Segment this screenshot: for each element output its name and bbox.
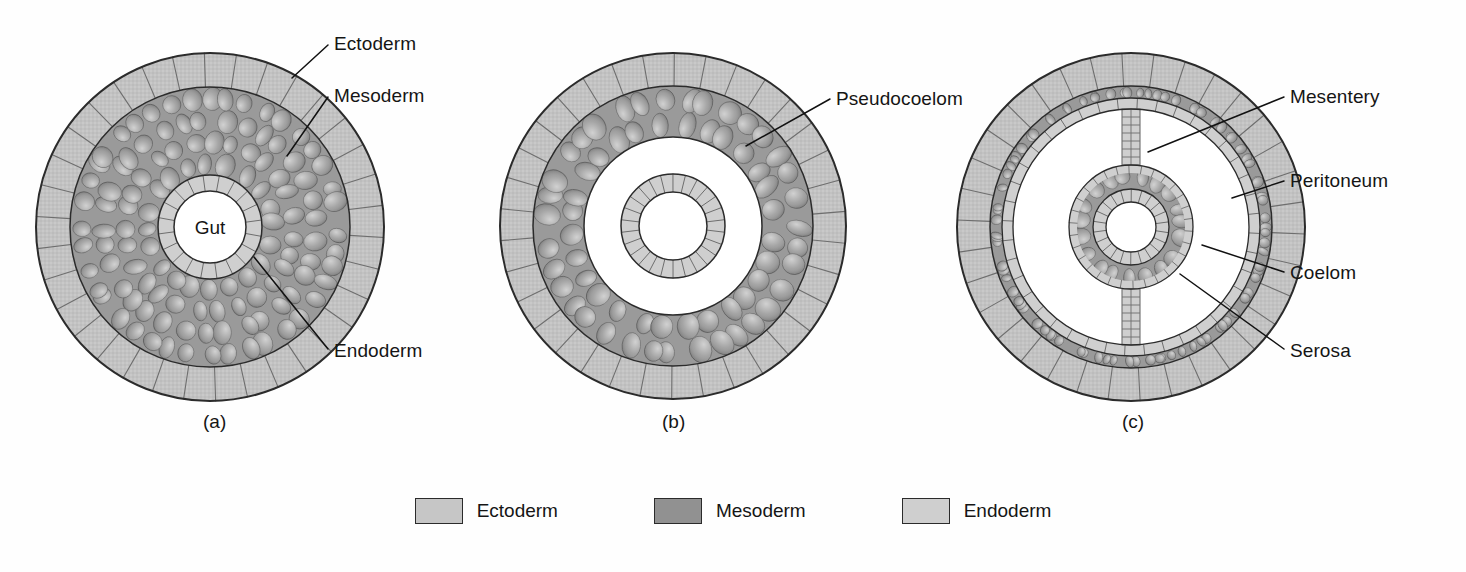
cell-divider [1137, 98, 1138, 109]
cell-divider [1185, 231, 1193, 232]
label-pseudocoelom-b: Pseudocoelom [836, 88, 963, 110]
legend-swatch-mesoderm [654, 498, 702, 524]
gut-cavity-label-a: Gut [195, 217, 226, 238]
panel-c [957, 53, 1305, 401]
anatomy-diagram-svg: Gut [0, 0, 1466, 572]
cell-divider [1002, 221, 1013, 222]
label-ectoderm-a: Ectoderm [334, 33, 416, 55]
leader-line-ectoderm-a [292, 45, 328, 78]
label-endoderm-a: Endoderm [334, 340, 422, 362]
legend-swatch-endoderm [902, 498, 950, 524]
legend-item-mesoderm: Mesoderm [654, 498, 806, 524]
mesoderm-cell-shading [116, 220, 135, 238]
legend-swatch-ectoderm [415, 498, 463, 524]
legend-item-endoderm: Endoderm [902, 498, 1052, 524]
label-mesoderm-a: Mesoderm [334, 85, 425, 107]
panel-a: Gut [36, 45, 384, 401]
legend-item-ectoderm: Ectoderm [415, 498, 558, 524]
caption-panel-c: (c) [1122, 411, 1144, 433]
mesoderm-cell-shading [213, 321, 231, 345]
panel-b [500, 53, 846, 399]
caption-panel-a: (a) [203, 411, 226, 433]
label-peritoneum-c: Peritoneum [1290, 170, 1388, 192]
legend: Ectoderm Mesoderm Endoderm [0, 498, 1466, 524]
figure-canvas: Gut Ectoderm Mesoderm Endoderm (a) Pseud… [0, 0, 1466, 572]
label-mesentery-c: Mesentery [1290, 86, 1380, 108]
legend-label-mesoderm: Mesoderm [716, 500, 806, 522]
cell-divider [1125, 345, 1126, 356]
label-coelom-c: Coelom [1290, 262, 1356, 284]
legend-label-endoderm: Endoderm [964, 500, 1052, 522]
cell-divider [1249, 233, 1260, 234]
legend-label-ectoderm: Ectoderm [477, 500, 558, 522]
caption-panel-b: (b) [662, 411, 685, 433]
cell-divider [1069, 223, 1077, 224]
label-serosa-c: Serosa [1290, 340, 1351, 362]
